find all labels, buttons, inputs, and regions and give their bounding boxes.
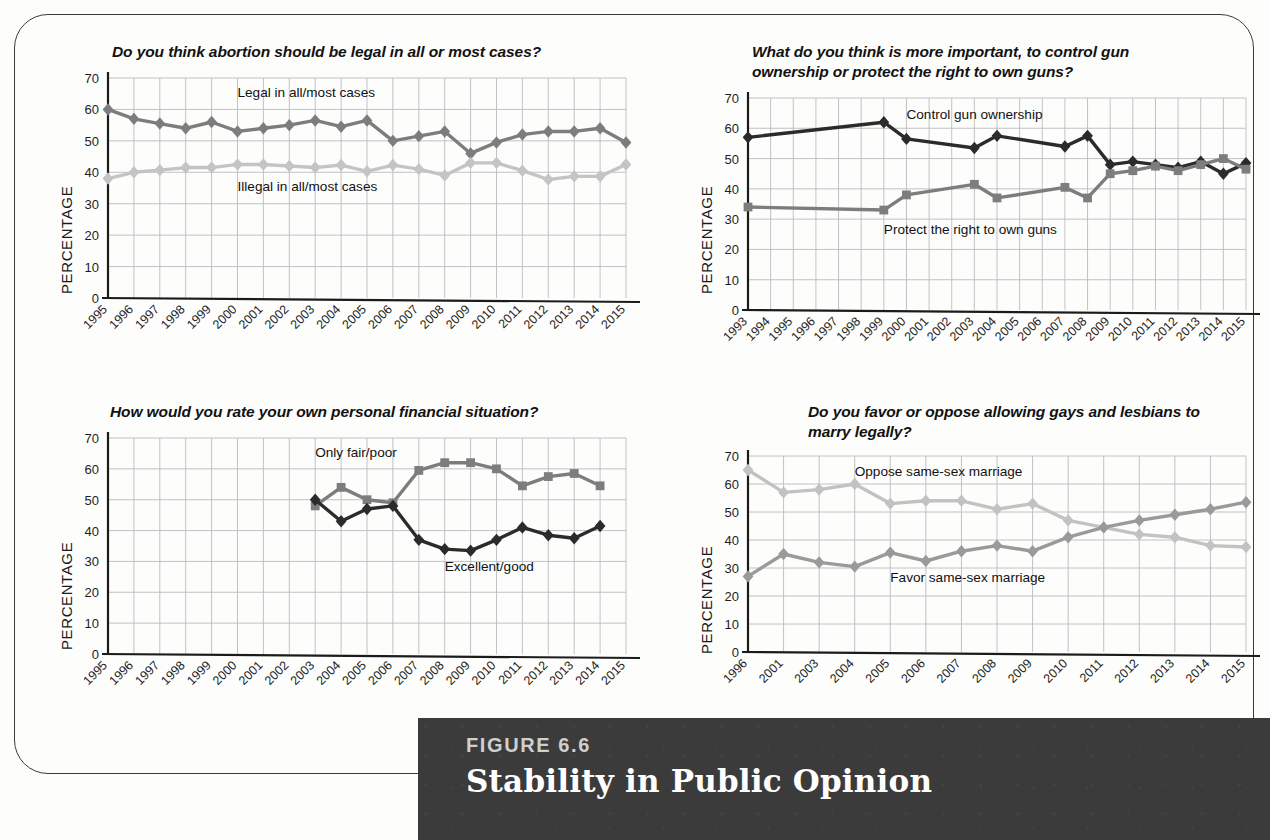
data-point-marker: [1061, 183, 1070, 192]
x-tick-label: 2006: [365, 302, 395, 332]
y-tick-label: 60: [85, 462, 99, 477]
data-point-marker: [440, 458, 449, 467]
y-tick-label: 50: [725, 151, 739, 166]
data-point-marker: [362, 503, 373, 515]
data-point-marker: [849, 560, 860, 572]
data-point-marker: [621, 136, 632, 148]
data-point-marker: [362, 165, 373, 177]
x-tick-label: 2010: [1105, 314, 1135, 344]
data-point-marker: [465, 544, 476, 556]
x-tick-label: 2004: [970, 314, 1000, 344]
data-point-marker: [993, 193, 1002, 202]
y-tick-label: 30: [85, 554, 99, 569]
data-point-marker: [180, 122, 191, 134]
x-axis-line: [742, 310, 1260, 314]
data-point-marker: [1127, 155, 1138, 167]
data-point-marker: [1241, 540, 1252, 552]
y-axis-label-finances: PERCENTAGE: [58, 542, 75, 650]
plot-abortion: PERCENTAGE 01020304050607019951996199719…: [48, 62, 648, 362]
x-tick-label: 1998: [834, 314, 864, 344]
x-tick-label: 1998: [158, 302, 188, 332]
data-point-marker: [1134, 528, 1145, 540]
data-point-marker: [258, 158, 269, 170]
y-tick-label: 60: [85, 102, 99, 117]
x-tick-label: 1995: [766, 314, 796, 344]
data-point-marker: [1083, 193, 1092, 202]
y-tick-label: 30: [725, 561, 739, 576]
chart-title-abortion: Do you think abortion should be legal in…: [112, 42, 632, 62]
x-tick-label: 2009: [1005, 656, 1035, 686]
x-tick-label: 2010: [1041, 656, 1071, 686]
data-point-marker: [491, 156, 502, 168]
data-point-marker: [517, 128, 528, 140]
data-point-marker: [621, 158, 632, 170]
data-point-marker: [885, 497, 896, 509]
x-tick-label: 2009: [443, 302, 473, 332]
data-point-marker: [1151, 161, 1160, 170]
x-tick-label: 2007: [391, 302, 421, 332]
x-tick-label: 2007: [934, 656, 964, 686]
x-tick-label: 2008: [970, 656, 1000, 686]
data-point-marker: [1219, 154, 1228, 163]
data-point-marker: [744, 202, 753, 211]
x-tick-label: 2015: [1219, 314, 1249, 344]
x-tick-label: 2015: [599, 658, 629, 688]
data-point-marker: [1027, 497, 1038, 509]
data-point-marker: [129, 166, 140, 178]
x-tick-label: 1998: [158, 658, 188, 688]
data-point-marker: [1128, 166, 1137, 175]
data-point-marker: [570, 469, 579, 478]
x-tick-label: 2014: [1183, 656, 1213, 686]
y-tick-label: 40: [725, 533, 739, 548]
y-tick-label: 60: [725, 477, 739, 492]
y-tick-label: 10: [725, 272, 739, 287]
data-point-marker: [466, 458, 475, 467]
x-tick-label: 2001: [756, 656, 786, 686]
series-line: [315, 500, 600, 551]
y-tick-label: 10: [85, 616, 99, 631]
x-axis-line: [742, 652, 1260, 656]
data-point-marker: [517, 164, 528, 176]
y-tick-label: 70: [85, 71, 99, 86]
series-annotation-label: Excellent/good: [445, 559, 534, 574]
series-annotation-label: Protect the right to own guns: [884, 222, 1057, 237]
x-tick-label: 2014: [573, 658, 603, 688]
figure-number: FIGURE 6.6: [466, 734, 1270, 757]
x-tick-label: 2011: [496, 302, 525, 331]
data-point-marker: [1205, 539, 1216, 551]
data-point-marker: [543, 173, 554, 185]
y-tick-label: 20: [725, 242, 739, 257]
x-tick-label: 2015: [1219, 656, 1249, 686]
x-tick-label: 1996: [106, 302, 136, 332]
y-tick-label: 10: [85, 259, 99, 274]
x-tick-label: 2003: [792, 656, 822, 686]
data-point-marker: [596, 481, 605, 490]
data-point-marker: [336, 159, 347, 171]
x-tick-label: 1997: [811, 314, 841, 344]
x-tick-label: 1999: [856, 314, 886, 344]
x-tick-label: 2007: [391, 658, 421, 688]
data-point-marker: [310, 114, 321, 126]
y-tick-label: 20: [85, 228, 99, 243]
x-tick-label: 2009: [1083, 314, 1113, 344]
data-point-marker: [1063, 531, 1074, 543]
data-point-marker: [414, 466, 423, 475]
data-point-marker: [1205, 503, 1216, 515]
x-tick-label: 2013: [1173, 314, 1203, 344]
data-point-marker: [129, 112, 140, 124]
chart-panel-marriage: Do you favor or oppose allowing gays and…: [690, 402, 1260, 722]
x-tick-label: 1997: [132, 302, 162, 332]
data-point-marker: [595, 122, 606, 134]
data-point-marker: [1218, 167, 1229, 179]
data-point-marker: [492, 464, 501, 473]
figure-title: Stability in Public Opinion: [466, 763, 1270, 799]
x-tick-label: 2001: [902, 314, 932, 344]
y-tick-label: 20: [85, 585, 99, 600]
x-tick-label: 2001: [236, 302, 266, 332]
data-point-marker: [1169, 508, 1180, 520]
data-point-marker: [232, 125, 243, 137]
series-annotation-label: Oppose same-sex marriage: [855, 463, 1023, 478]
x-tick-label: 1999: [184, 302, 214, 332]
data-point-marker: [879, 205, 888, 214]
data-point-marker: [1169, 531, 1180, 543]
